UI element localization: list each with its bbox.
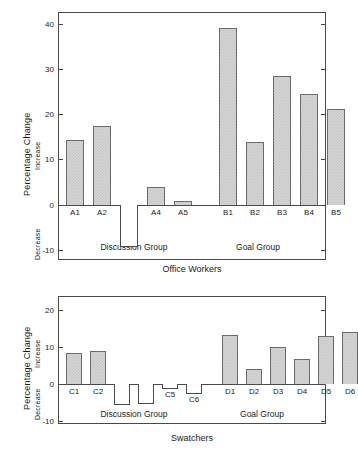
- xtick-label-C6: C6: [189, 395, 199, 404]
- tick-top-20: [58, 114, 63, 115]
- bar-B3: [273, 76, 291, 205]
- panel-caption-top: Office Workers: [162, 264, 221, 274]
- bar-D4: [294, 359, 310, 384]
- tick-bottom-20: [58, 310, 63, 311]
- xtick-label-A1: A1: [70, 208, 80, 217]
- xtick-label-A5: A5: [178, 208, 188, 217]
- tick-bottom-minus10-right: [321, 421, 326, 422]
- group-label-discussion-bottom: Discussion Group: [100, 409, 167, 419]
- xtick-label-C5: C5: [165, 390, 175, 399]
- bar-A1: [66, 140, 84, 205]
- ytick-label-bottom-10: 10: [36, 343, 54, 352]
- tick-top-40-right: [321, 24, 326, 25]
- bar-D3: [270, 347, 286, 384]
- panel-swatchers: Percentage Change Increase Decrease 20 1…: [0, 278, 356, 463]
- zero-baseline-top: [59, 205, 325, 206]
- y-axis-title-decrease-top: Decrease: [34, 228, 41, 260]
- ytick-label-bottom-20: 20: [36, 306, 54, 315]
- bar-D5: [318, 336, 334, 384]
- xtick-label-B1: B1: [223, 208, 233, 217]
- xtick-label-A2: A2: [97, 208, 107, 217]
- xtick-label-D1: D1: [225, 387, 235, 396]
- y-axis-title-bottom: Percentage Change: [22, 327, 32, 410]
- tick-bottom-10: [58, 347, 63, 348]
- xtick-label-C2: C2: [93, 387, 103, 396]
- tick-top-30-right: [321, 69, 326, 70]
- ytick-label-bottom-0: 0: [36, 380, 54, 389]
- xtick-label-C1: C1: [69, 387, 79, 396]
- xtick-label-D3: D3: [273, 387, 283, 396]
- bar-B2: [246, 142, 264, 205]
- bar-C6: [186, 384, 202, 394]
- xtick-label-D5: D5: [321, 387, 331, 396]
- tick-top-minus10-right: [321, 250, 326, 251]
- xtick-label-B2: B2: [250, 208, 260, 217]
- ytick-label-top-20: 20: [36, 110, 54, 119]
- bar-A3: [120, 205, 138, 247]
- xtick-label-D6: D6: [345, 387, 355, 396]
- ytick-label-top-30: 30: [36, 65, 54, 74]
- ytick-label-top-minus10: -10: [30, 246, 54, 255]
- group-label-goal-top: Goal Group: [236, 242, 280, 252]
- tick-bottom-20-right: [321, 310, 326, 311]
- bar-C2: [90, 351, 106, 384]
- bar-D2: [246, 369, 262, 384]
- tick-bottom-minus10: [58, 421, 63, 422]
- xtick-label-B5: B5: [331, 208, 341, 217]
- bar-D6: [342, 332, 358, 384]
- y-axis-title-top: Percentage Change: [22, 113, 32, 196]
- bar-B1: [219, 28, 237, 205]
- bar-B4: [300, 94, 318, 205]
- panel-caption-bottom: Swatchers: [171, 433, 213, 443]
- bar-B5: [327, 109, 345, 205]
- tick-top-10: [58, 159, 63, 160]
- panel-office-workers: Percentage Change Increase Decrease 40 3…: [0, 0, 356, 278]
- bar-A5: [174, 201, 192, 205]
- tick-top-20-right: [321, 114, 326, 115]
- xtick-label-B4: B4: [304, 208, 314, 217]
- bar-D1: [222, 335, 238, 384]
- xtick-label-B3: B3: [277, 208, 287, 217]
- ytick-label-top-0: 0: [36, 201, 54, 210]
- bar-A2: [93, 126, 111, 205]
- xtick-label-D4: D4: [297, 387, 307, 396]
- bar-C3: [114, 384, 130, 405]
- tick-top-10-right: [321, 159, 326, 160]
- ytick-label-top-40: 40: [36, 20, 54, 29]
- xtick-label-D2: D2: [249, 387, 259, 396]
- group-label-goal-bottom: Goal Group: [240, 409, 284, 419]
- bar-C5: [162, 384, 178, 389]
- bar-A4: [147, 187, 165, 205]
- bar-C4: [138, 384, 154, 404]
- tick-top-30: [58, 69, 63, 70]
- bar-C1: [66, 353, 82, 384]
- tick-top-40: [58, 24, 63, 25]
- tick-top-minus10: [58, 250, 63, 251]
- y-axis-title-decrease-bottom: Decrease: [34, 388, 41, 420]
- ytick-label-top-10: 10: [36, 155, 54, 164]
- xtick-label-A4: A4: [151, 208, 161, 217]
- ytick-label-bottom-minus10: -10: [30, 417, 54, 426]
